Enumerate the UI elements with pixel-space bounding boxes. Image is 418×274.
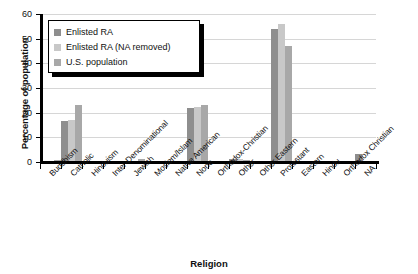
legend-swatch-icon: [54, 29, 61, 36]
legend-item: Enlisted RA: [54, 25, 194, 40]
y-axis-tick-label: 0: [2, 158, 32, 167]
y-axis-tick-label: 10: [2, 133, 32, 142]
chart-legend: Enlisted RAEnlisted RA (NA removed)U.S. …: [48, 20, 200, 73]
bar: [278, 24, 285, 162]
bar-group: [313, 14, 334, 162]
legend-swatch-icon: [54, 44, 61, 51]
legend-item-label: Enlisted RA: [66, 28, 113, 37]
y-axis-tick-label: 30: [2, 84, 32, 93]
bar: [271, 29, 278, 162]
legend-item: U.S. population: [54, 55, 194, 70]
y-axis-line: [40, 14, 43, 164]
x-axis-title: Religion: [0, 258, 418, 269]
legend-item-label: U.S. population: [66, 58, 128, 67]
y-axis-tick-label: 50: [2, 35, 32, 44]
x-axis-tick: [40, 164, 41, 169]
bar-group: [334, 14, 355, 162]
legend-item: Enlisted RA (NA removed): [54, 40, 194, 55]
chart-figure: Percentage of population 0102030405060 B…: [0, 0, 418, 274]
legend-item-label: Enlisted RA (NA removed): [66, 43, 171, 52]
legend-swatch-icon: [54, 59, 61, 66]
y-axis-tick-label: 40: [2, 59, 32, 68]
y-axis-tick-label: 60: [2, 10, 32, 19]
y-axis-tick-label: 20: [2, 109, 32, 118]
